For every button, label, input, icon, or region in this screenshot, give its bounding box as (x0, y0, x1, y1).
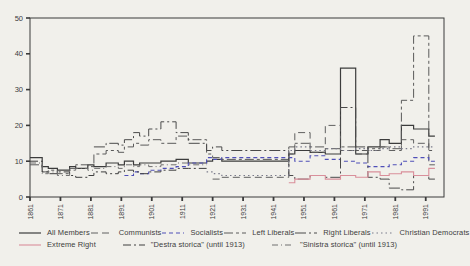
legend-item-destra-storica: "Destra storica" (until 1913) (122, 240, 245, 249)
legend-label: Extreme Right (47, 240, 96, 249)
series-extreme-right (289, 168, 435, 182)
legend-item-communists: Communists (90, 228, 162, 237)
x-tick-label: 1951 (300, 204, 307, 220)
legend-item-christian-democrats: Christian Democrats (371, 228, 470, 237)
legend-label: All Members (47, 228, 90, 237)
x-tick-label: 1901 (148, 204, 155, 220)
legend-row-1: All MembersCommunistsSocialistsLeft Libe… (18, 228, 458, 237)
legend-label: Communists (119, 228, 162, 237)
legend-label: Left Liberals (252, 228, 294, 237)
legend-label: "Destra storica" (until 1913) (151, 240, 245, 249)
legend-item-sinistra-storica: "Sinistra storica" (until 1913) (271, 240, 397, 249)
legend-swatch-right-liberals (294, 229, 318, 237)
chart-legend: All MembersCommunistsSocialistsLeft Libe… (18, 228, 458, 249)
x-tick-label: 1891 (118, 204, 125, 220)
x-tick-label: 1921 (209, 204, 216, 220)
x-tick-label: 1911 (179, 204, 186, 219)
x-tick-label: 1871 (57, 204, 64, 220)
legend-label: Right Liberals (323, 228, 370, 237)
legend-row-2: Extreme Right"Destra storica" (until 191… (18, 240, 458, 249)
legend-swatch-left-liberals (223, 229, 247, 237)
y-tick-label: 0 (19, 193, 23, 202)
y-tick-label: 50 (15, 14, 23, 23)
x-tick-label: 1881 (87, 204, 94, 220)
x-tick-label: 1991 (422, 204, 429, 220)
figure: 0102030405018611871188118911901191119211… (0, 0, 470, 266)
x-tick-label: 1941 (270, 204, 277, 220)
legend-item-left-liberals: Left Liberals (223, 228, 294, 237)
x-tick-label: 1961 (331, 204, 338, 220)
chart-svg: 0102030405018611871188118911901191119211… (0, 0, 470, 228)
legend-label: "Sinistra storica" (until 1913) (300, 240, 397, 249)
y-tick-label: 40 (15, 49, 23, 58)
x-tick-label: 1861 (27, 204, 34, 220)
x-tick-label: 1981 (392, 204, 399, 220)
legend-swatch-communists (90, 229, 114, 237)
legend-item-right-liberals: Right Liberals (294, 228, 370, 237)
series-left-liberals (30, 36, 435, 174)
legend-label: Christian Democrats (400, 228, 470, 237)
legend-swatch-socialists (161, 229, 185, 237)
series-socialists (124, 156, 435, 176)
legend-item-socialists: Socialists (161, 228, 223, 237)
legend-label: Socialists (190, 228, 223, 237)
legend-item-all-members: All Members (18, 228, 90, 237)
x-tick-label: 1931 (240, 204, 247, 220)
legend-item-extreme-right: Extreme Right (18, 240, 96, 249)
y-tick-label: 20 (15, 121, 23, 130)
y-tick-label: 10 (15, 157, 23, 166)
series-all-members (30, 68, 435, 170)
legend-swatch-all-members (18, 229, 42, 237)
chart: 0102030405018611871188118911901191119211… (0, 0, 470, 232)
legend-swatch-destra-storica (122, 241, 146, 249)
legend-swatch-extreme-right (18, 241, 42, 249)
legend-swatch-christian-democrats (371, 229, 395, 237)
y-tick-label: 30 (15, 85, 23, 94)
x-tick-label: 1971 (361, 204, 368, 220)
legend-swatch-sinistra-storica (271, 241, 295, 249)
